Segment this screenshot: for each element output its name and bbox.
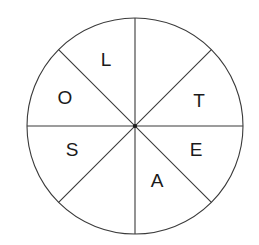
center-hub-dot bbox=[133, 124, 137, 128]
sector-label-o: O bbox=[58, 87, 73, 108]
sector-label-a: A bbox=[151, 170, 164, 191]
sector-label-s: S bbox=[66, 139, 79, 160]
sector-label-l: L bbox=[101, 49, 112, 70]
sector-label-e: E bbox=[190, 139, 203, 160]
wheel-canvas: L T E A S O bbox=[0, 0, 259, 245]
sector-label-t: T bbox=[193, 90, 205, 111]
sector-wheel-figure: L T E A S O bbox=[0, 0, 259, 245]
